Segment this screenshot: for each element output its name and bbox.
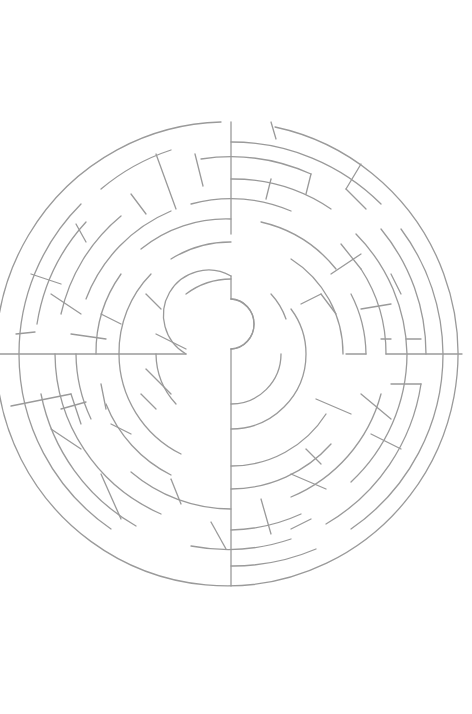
circular-maze <box>0 0 472 714</box>
oven-cake-icon <box>112 588 230 710</box>
maze-puzzle: Running cook <box>0 0 472 714</box>
